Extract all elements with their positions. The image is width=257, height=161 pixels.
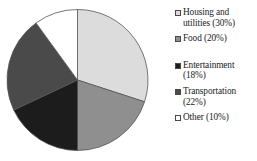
legend-swatch-housing-and-utilities bbox=[175, 10, 181, 16]
pie-chart-plot-area bbox=[6, 8, 150, 154]
legend-label-food: Food (20%) bbox=[183, 33, 227, 44]
legend-label-housing-and-utilities: Housing and utilities (30%) bbox=[183, 7, 235, 28]
legend-swatch-transportation bbox=[175, 89, 181, 95]
chart-legend: Housing and utilities (30%) Food (20%) E… bbox=[175, 7, 257, 157]
pie-slice-group bbox=[7, 10, 148, 151]
legend-item-entertainment[interactable]: Entertainment (18%) bbox=[175, 60, 257, 81]
legend-label-other: Other (10%) bbox=[183, 112, 229, 123]
legend-swatch-other bbox=[175, 115, 181, 121]
pie-chart-svg bbox=[6, 8, 150, 154]
legend-swatch-food bbox=[175, 36, 181, 42]
legend-item-other[interactable]: Other (10%) bbox=[175, 112, 257, 123]
legend-swatch-entertainment bbox=[175, 63, 181, 69]
legend-item-transportation[interactable]: Transportation (22%) bbox=[175, 86, 257, 107]
legend-item-food[interactable]: Food (20%) bbox=[175, 33, 257, 44]
pie-chart-figure: Housing and utilities (30%) Food (20%) E… bbox=[0, 0, 257, 161]
legend-label-entertainment: Entertainment (18%) bbox=[183, 60, 234, 81]
legend-item-housing-and-utilities[interactable]: Housing and utilities (30%) bbox=[175, 7, 257, 28]
legend-label-transportation: Transportation (22%) bbox=[183, 86, 236, 107]
